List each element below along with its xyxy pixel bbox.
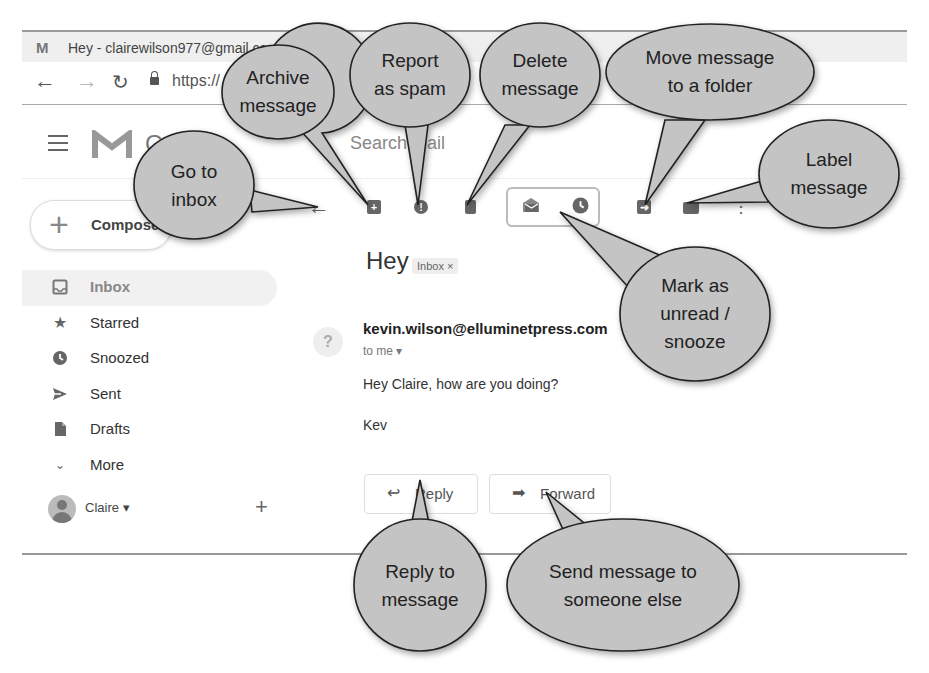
report-spam-icon[interactable]: ! <box>414 200 428 214</box>
plus-icon: + <box>49 205 69 243</box>
sender-avatar: ? <box>313 327 343 357</box>
archive-icon[interactable]: + <box>367 200 381 214</box>
inbox-label-chip[interactable]: Inbox × <box>412 258 458 274</box>
callout-delete-text: Deletemessage <box>490 47 590 103</box>
reply-icon: ↩ <box>387 483 400 502</box>
reply-button[interactable]: ↩ Reply <box>364 474 478 514</box>
label-icon[interactable] <box>683 202 699 214</box>
callout-move-text: Move messageto a folder <box>630 44 790 100</box>
sender-email[interactable]: kevin.wilson@elluminetpress.com <box>363 320 608 337</box>
browser-tab[interactable]: Hey - clairewilson977@gmail.cc <box>68 40 267 56</box>
send-icon <box>52 386 68 402</box>
avatar[interactable] <box>48 495 76 523</box>
sidebar-item-label: Sent <box>90 385 121 402</box>
callout-reply-text: Reply tomessage <box>370 558 470 614</box>
divider <box>22 104 907 105</box>
inbox-icon <box>52 279 68 295</box>
snooze-icon[interactable] <box>572 197 589 218</box>
mark-unread-icon[interactable] <box>522 197 540 217</box>
callout-spam-text: Reportas spam <box>360 47 460 103</box>
reload-icon[interactable]: ↻ <box>112 70 129 94</box>
callout-forward-text: Send message tosomeone else <box>543 558 703 614</box>
sidebar-item-snoozed[interactable]: Snoozed <box>52 341 272 377</box>
message-subject: Hey <box>366 247 409 275</box>
forward-label: Forward <box>540 485 595 502</box>
sidebar-item-label: Starred <box>90 314 139 331</box>
sidebar-item-starred[interactable]: ★ Starred <box>52 306 272 342</box>
sidebar-item-sent[interactable]: Sent <box>52 377 272 413</box>
sidebar-item-drafts[interactable]: Drafts <box>52 412 272 448</box>
callout-label-text: Labelmessage <box>779 146 879 202</box>
sidebar-item-label: More <box>90 456 124 473</box>
sidebar-item-label: Inbox <box>90 278 130 295</box>
main-menu-icon[interactable] <box>48 135 68 156</box>
reply-label: Reply <box>415 485 453 502</box>
move-to-icon[interactable]: ➜ <box>637 200 651 214</box>
gmail-favicon-icon: M <box>36 39 49 56</box>
account-switcher[interactable]: Claire ▾ <box>85 500 130 515</box>
chevron-down-icon: ⌄ <box>52 457 68 473</box>
sidebar-item-label: Drafts <box>90 420 130 437</box>
more-options-icon[interactable]: ⋮ <box>732 195 750 217</box>
new-tab-button[interactable]: + <box>295 30 310 61</box>
forward-arrow-icon[interactable]: → <box>76 68 98 94</box>
message-body: Hey Claire, how are you doing? <box>363 376 558 392</box>
delete-icon[interactable] <box>465 200 476 214</box>
divider <box>22 553 907 555</box>
forward-icon: ➡ <box>512 483 525 502</box>
callout-unread-text: Mark asunread /snooze <box>645 272 745 356</box>
callout-archive-text: Archivemessage <box>228 64 328 120</box>
back-arrow-icon[interactable]: ← <box>34 68 56 94</box>
compose-label: Compose <box>91 216 159 233</box>
star-icon: ★ <box>52 315 68 331</box>
search-input[interactable]: Search mail <box>350 133 445 154</box>
gmail-logo-text: Gmail <box>145 130 208 158</box>
lock-icon <box>150 77 159 85</box>
add-account-button[interactable]: + <box>255 494 268 520</box>
sidebar-item-inbox[interactable]: Inbox <box>52 270 272 306</box>
callout-inbox-text: Go toinbox <box>144 158 244 214</box>
draft-icon <box>52 421 68 437</box>
clock-icon <box>52 350 68 366</box>
message-signature: Kev <box>363 417 387 433</box>
back-to-inbox-button[interactable]: ← <box>308 194 330 220</box>
gmail-logo-icon <box>92 130 132 160</box>
sidebar-item-more[interactable]: ⌄ More <box>52 448 272 484</box>
recipient-details-toggle[interactable]: to me ▾ <box>363 344 402 358</box>
forward-button[interactable]: ➡ Forward <box>489 474 611 514</box>
sidebar-item-label: Snoozed <box>90 349 149 366</box>
url-field[interactable]: https:// <box>172 72 220 90</box>
